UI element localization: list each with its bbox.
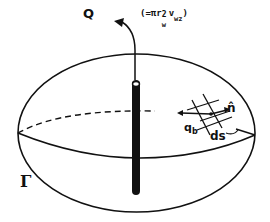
- surface-element-leader: [226, 130, 238, 134]
- discharge-label: Q: [83, 7, 94, 20]
- boundary-label: Γ: [20, 174, 31, 190]
- discharge-expression-sup: 2: [162, 11, 167, 19]
- discharge-expression-open: (=πr: [140, 8, 162, 18]
- discharge-arrowhead-icon: [114, 18, 124, 27]
- discharge-flow-line: [122, 22, 135, 80]
- well-top-opening: [133, 82, 140, 87]
- equator-back-right: [236, 129, 255, 135]
- boundary-flux-symbol: q: [184, 121, 192, 134]
- normal-vector-label: n̂: [227, 102, 236, 114]
- surface-element-label: ds: [210, 130, 226, 142]
- boundary-flux-arrowhead-icon: [177, 110, 183, 116]
- discharge-expression: (=πr2wvwz): [140, 9, 188, 18]
- boundary-flux-subscript: b: [192, 127, 198, 136]
- boundary-flux-arrow: [181, 113, 211, 114]
- discharge-expression-sub-w: w: [162, 22, 166, 29]
- boundary-flux-label: qb: [184, 122, 198, 136]
- discharge-expression-close: ): [183, 8, 188, 18]
- discharge-expression-sub-wz: wz: [174, 15, 182, 23]
